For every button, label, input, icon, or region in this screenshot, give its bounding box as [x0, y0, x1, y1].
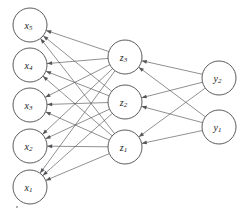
arrowhead-icon — [142, 60, 147, 64]
page-specks — [16, 206, 18, 208]
arrowhead-icon — [139, 132, 144, 137]
edge-y2-to-z3 — [142, 60, 203, 74]
node-x3[interactable]: x3 — [13, 88, 47, 122]
edge-z2-to-x5 — [43, 36, 112, 92]
node-x1[interactable]: x1 — [13, 170, 47, 204]
arrowhead-icon — [47, 144, 52, 148]
node-x4[interactable]: x4 — [13, 48, 47, 82]
edge-z1-to-x4 — [43, 76, 112, 136]
network-diagram-canvas: x5x4x3x2x1z3z2z1y2y1 — [0, 0, 244, 213]
arrowhead-icon — [46, 112, 52, 116]
arrowhead-icon — [40, 168, 45, 173]
arrowhead-icon — [40, 38, 45, 43]
edge-z3-to-x2 — [42, 69, 112, 135]
arrowhead-icon — [45, 93, 51, 97]
node-x2[interactable]: x2 — [13, 129, 47, 163]
node-y2[interactable]: y2 — [202, 61, 236, 95]
arrowhead-icon — [46, 71, 52, 75]
neural-network-diagram: x5x4x3x2x1z3z2z1y2y1 — [0, 0, 244, 213]
arrowhead-icon — [142, 141, 147, 145]
node-z2[interactable]: z2 — [108, 85, 142, 119]
node-y1[interactable]: y1 — [202, 110, 236, 144]
edge-z3-to-x5 — [46, 30, 109, 51]
arrowhead-icon — [47, 102, 52, 106]
node-z1[interactable]: z1 — [108, 130, 142, 164]
arrowhead-icon — [46, 30, 52, 34]
node-z3[interactable]: z3 — [108, 40, 142, 74]
arrowhead-icon — [141, 106, 147, 110]
node-x5[interactable]: x5 — [13, 8, 47, 42]
edge-y2-to-z1 — [139, 88, 206, 137]
edge-y2-to-z2 — [141, 82, 202, 98]
scan-speck-0 — [16, 206, 18, 208]
edge-z1-to-x1 — [46, 154, 110, 181]
arrowhead-icon — [46, 177, 52, 181]
edge-y1-to-z2 — [141, 106, 202, 123]
edge-y1-to-z1 — [142, 131, 203, 145]
arrowhead-icon — [45, 135, 51, 139]
edge-z2-to-x1 — [43, 113, 113, 175]
arrowhead-icon — [47, 61, 52, 65]
arrowhead-icon — [43, 36, 48, 41]
arrowhead-icon — [139, 67, 144, 72]
edge-z3-to-x4 — [47, 58, 108, 65]
edge-y1-to-z3 — [139, 67, 206, 117]
edge-z1-to-x3 — [46, 112, 110, 140]
arrowhead-icon — [141, 95, 147, 99]
